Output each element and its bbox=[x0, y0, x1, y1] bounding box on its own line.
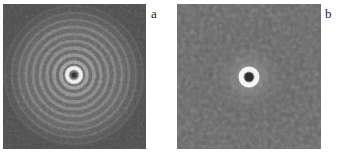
panel-b-image bbox=[177, 4, 321, 149]
panel-a-image bbox=[3, 4, 146, 149]
ring-pattern-b-graphic bbox=[177, 4, 321, 149]
panel-label-a: a bbox=[151, 7, 157, 20]
ring-pattern-a-graphic bbox=[3, 4, 146, 149]
panel-label-b: b bbox=[325, 7, 332, 20]
